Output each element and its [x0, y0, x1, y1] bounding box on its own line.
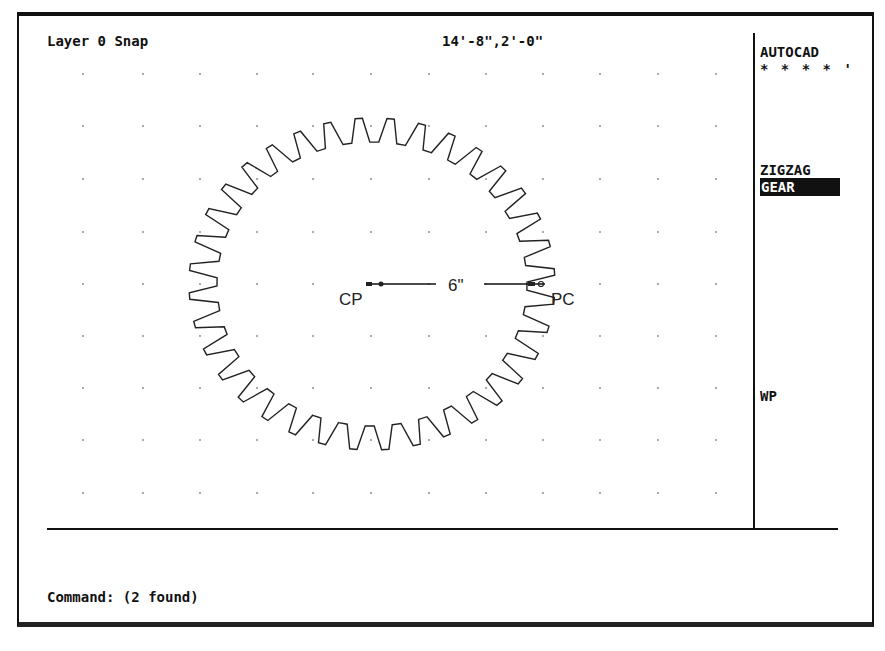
grid-dot: [657, 335, 658, 336]
command-prompt[interactable]: Command: (2 found): [47, 589, 199, 605]
grid-dot: [312, 178, 313, 179]
grid-dot: [715, 387, 716, 388]
grid-dot: [199, 387, 200, 388]
grid-dot: [370, 178, 371, 179]
grid-dot: [599, 439, 600, 440]
grid-dot: [256, 283, 257, 284]
grid-dot: [715, 178, 716, 179]
grid-dot: [312, 492, 313, 493]
grid-dot: [599, 335, 600, 336]
side-menu-stars[interactable]: * * * * ': [760, 60, 854, 78]
grid-dot: [542, 73, 543, 74]
grid-dot: [715, 73, 716, 74]
grid-dot: [199, 335, 200, 336]
grid-dot: [657, 231, 658, 232]
grid-dot: [485, 387, 486, 388]
grid-dot: [542, 178, 543, 179]
grid-dot: [312, 231, 313, 232]
grid-dot: [715, 492, 716, 493]
grid-dot: [428, 335, 429, 336]
grid-dot: [485, 439, 486, 440]
grid-dot: [657, 387, 658, 388]
grid-dot: [142, 125, 143, 126]
grid-dot: [657, 178, 658, 179]
grid-dot: [485, 125, 486, 126]
grid-dot: [142, 335, 143, 336]
grid-dot: [542, 231, 543, 232]
grid-dot: [199, 231, 200, 232]
side-menu-item-gear[interactable]: GEAR: [760, 178, 840, 196]
grid-dot: [428, 178, 429, 179]
side-menu-item-zigzag[interactable]: ZIGZAG: [760, 161, 811, 179]
grid-dot: [542, 125, 543, 126]
grid-dot: [485, 178, 486, 179]
grid-dot: [142, 492, 143, 493]
grid-dot: [599, 73, 600, 74]
grid-dot: [715, 335, 716, 336]
side-menu-divider: [753, 33, 755, 530]
grid-dot: [142, 387, 143, 388]
side-menu-item-wp[interactable]: WP: [760, 387, 777, 405]
pc-label: PC: [551, 290, 575, 309]
grid-dot: [370, 125, 371, 126]
grid-dot: [715, 231, 716, 232]
grid-dot: [542, 492, 543, 493]
grid-dot: [370, 387, 371, 388]
grid-dot: [599, 231, 600, 232]
grid-dot: [715, 125, 716, 126]
grid-dot: [256, 231, 257, 232]
grid-dot: [142, 73, 143, 74]
grid-dot: [199, 492, 200, 493]
grid-dot: [82, 125, 83, 126]
grid-dot: [370, 335, 371, 336]
grid-dot: [199, 125, 200, 126]
grid-dot: [312, 439, 313, 440]
grid-dot: [82, 335, 83, 336]
grid-dot: [599, 283, 600, 284]
grid-dot: [370, 231, 371, 232]
grid-dot: [657, 439, 658, 440]
grid-dot: [715, 439, 716, 440]
cp-endpoint-icon: [379, 282, 384, 287]
grid-dot: [485, 335, 486, 336]
grid-dot: [485, 73, 486, 74]
grid-dot: [256, 439, 257, 440]
grid-dot: [256, 387, 257, 388]
grid-dot: [142, 439, 143, 440]
grid-dot: [82, 73, 83, 74]
grid-dot: [428, 73, 429, 74]
grid-dot: [599, 492, 600, 493]
grid-dot: [142, 283, 143, 284]
grid-dot: [657, 73, 658, 74]
grid-dot: [142, 178, 143, 179]
grid-dot: [256, 73, 257, 74]
grid-dot: [256, 125, 257, 126]
side-menu-title[interactable]: AUTOCAD: [760, 43, 819, 61]
grid-dot: [657, 125, 658, 126]
grid-dot: [199, 178, 200, 179]
grid-dot: [312, 335, 313, 336]
grid-dot: [542, 439, 543, 440]
grid-dot: [485, 231, 486, 232]
cp-marker: [366, 282, 372, 286]
grid-dot: [256, 178, 257, 179]
grid-dot: [428, 125, 429, 126]
grid-dot: [370, 73, 371, 74]
grid-dot: [256, 335, 257, 336]
grid-dot: [82, 283, 83, 284]
grid-dot: [312, 387, 313, 388]
grid-dot: [199, 439, 200, 440]
grid-dot: [657, 283, 658, 284]
grid-dot: [370, 439, 371, 440]
grid-dot: [199, 283, 200, 284]
grid-dot: [82, 492, 83, 493]
grid-dot: [82, 387, 83, 388]
grid-dot: [599, 387, 600, 388]
grid-dot: [142, 231, 143, 232]
grid-dot: [82, 178, 83, 179]
grid-dot: [256, 492, 257, 493]
grid-dot: [715, 283, 716, 284]
grid-dot: [428, 231, 429, 232]
grid-dot: [599, 178, 600, 179]
pc-marker: [528, 282, 535, 286]
